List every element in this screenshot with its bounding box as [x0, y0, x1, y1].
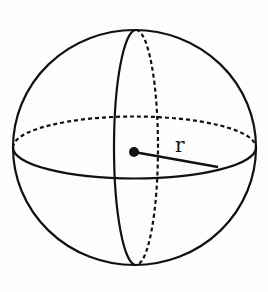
center-point [129, 147, 139, 157]
sphere-diagram: r [0, 0, 268, 292]
radius-label: r [175, 135, 185, 155]
equator-back-dashed [13, 116, 256, 147]
meridian-back-dashed [136, 30, 158, 265]
sphere-svg [0, 0, 268, 292]
